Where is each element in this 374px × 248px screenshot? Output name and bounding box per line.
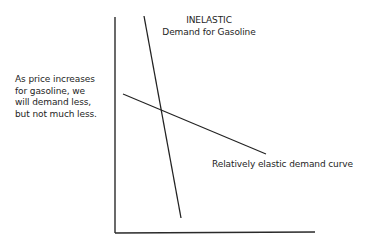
elastic-curve-label: Relatively elastic demand curve — [212, 159, 353, 171]
title-line-2: Demand for Gasoline — [160, 27, 258, 39]
elastic-demand-curve — [123, 94, 266, 154]
note-line: As price increases — [15, 74, 97, 86]
x-axis — [115, 232, 315, 233]
note-line: for gasoline, we — [15, 86, 97, 98]
left-annotation: As price increases for gasoline, we will… — [15, 74, 97, 120]
note-line: will demand less, — [15, 97, 97, 109]
diagram-title: INELASTIC Demand for Gasoline — [160, 15, 258, 38]
title-line-1: INELASTIC — [160, 15, 258, 27]
inelastic-demand-curve — [144, 16, 181, 218]
note-line: but not much less. — [15, 109, 97, 121]
